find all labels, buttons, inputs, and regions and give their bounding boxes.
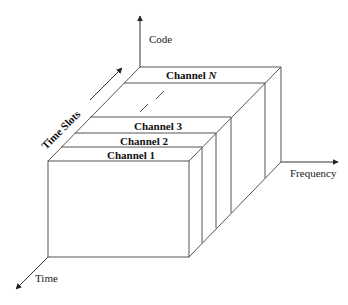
channel-space-diagram: Code Frequency Time Time Slots bbox=[0, 0, 348, 305]
time-slots-indicator: Time Slots bbox=[39, 68, 122, 151]
time-slots-label: Time Slots bbox=[39, 107, 83, 151]
channel-1-label: Channel 1 bbox=[107, 149, 155, 161]
time-axis: Time bbox=[16, 257, 58, 289]
frequency-axis-label: Frequency bbox=[290, 167, 337, 179]
channel-2-label: Channel 2 bbox=[120, 135, 168, 147]
channel-n-label: Channel N bbox=[166, 69, 218, 81]
time-axis-label: Time bbox=[35, 272, 58, 284]
code-axis-label: Code bbox=[149, 33, 172, 45]
frequency-axis: Frequency bbox=[281, 162, 338, 179]
channel-box bbox=[48, 67, 281, 257]
code-axis: Code bbox=[140, 16, 172, 67]
channel-3-label: Channel 3 bbox=[134, 120, 182, 132]
